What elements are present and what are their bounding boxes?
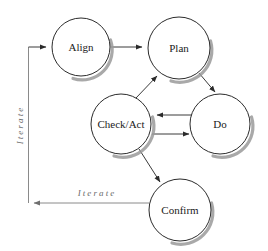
node-plan-label: Plan [169, 42, 189, 54]
node-check-act[interactable]: Check/Act [91, 94, 154, 157]
edge-label-iterate-horizontal: Iterate [77, 188, 117, 198]
node-do[interactable]: Do [190, 94, 253, 157]
node-align[interactable]: Align [52, 18, 112, 80]
node-plan[interactable]: Plan [148, 17, 212, 82]
edge-label-iterate-vertical: Iterate [15, 106, 25, 146]
edge-check-act-to-plan [136, 76, 157, 98]
diagram-canvas: Align Plan Check/Act Do Confirm Iterate [0, 0, 268, 251]
diagram-svg: Align Plan Check/Act Do Confirm Iterate [0, 0, 268, 251]
node-align-label: Align [68, 41, 94, 53]
node-do-label: Do [213, 118, 227, 130]
node-confirm-label: Confirm [161, 204, 199, 216]
node-check-act-label: Check/Act [97, 118, 144, 130]
edge-check-act-to-confirm [139, 149, 160, 182]
node-confirm[interactable]: Confirm [149, 179, 213, 244]
